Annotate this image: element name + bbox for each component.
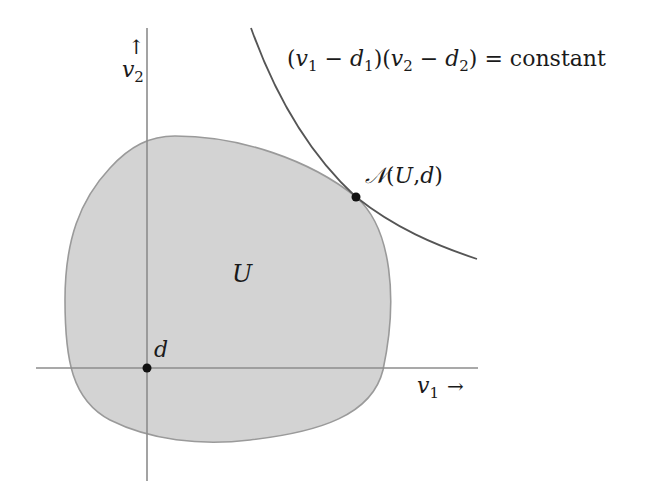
v1-axis-label: v1→ — [417, 375, 464, 401]
hyperbola-formula-label: (v1 − d1)(v2 − d2) = constant — [287, 48, 606, 74]
up-arrow-icon: ↑ — [128, 37, 145, 57]
v2-axis-label: ↑ v2 — [121, 37, 145, 85]
nash-bargaining-diagram — [0, 0, 651, 503]
right-arrow-icon: → — [447, 374, 464, 398]
disagreement-point-label: d — [154, 339, 168, 361]
region-u-label: U — [232, 262, 252, 286]
nash-point — [352, 193, 361, 202]
disagreement-point-d — [143, 364, 152, 373]
nash-point-label: 𝒩(U,d) — [365, 165, 443, 187]
